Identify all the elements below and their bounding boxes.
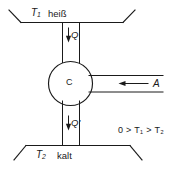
hot-wall-hatch-right <box>123 10 135 23</box>
cold-reservoir-wall <box>14 146 142 161</box>
hot-temperature-label: T1 <box>31 8 41 19</box>
work-label: A <box>153 79 160 89</box>
cold-temperature-label: T2 <box>36 150 46 161</box>
cold-wall-hatch-right <box>130 146 142 161</box>
heat-out-label: Q' <box>71 118 80 128</box>
cold-state-label: kalt <box>57 151 72 161</box>
work-arrow <box>119 81 149 86</box>
engine-label: C <box>66 78 73 87</box>
hot-state-label: heiß <box>48 9 66 19</box>
heat-engine-diagram: T1 heiß Q C A Q' T2 kalt 0 > T₁ > T₂ <box>0 0 185 170</box>
hot-wall-hatch-left <box>9 10 21 23</box>
temperature-relation-label: 0 > T₁ > T₂ <box>118 126 164 135</box>
cold-wall-hatch-left <box>14 146 26 161</box>
hot-reservoir-wall <box>9 10 135 23</box>
work-arrow-head <box>119 81 126 86</box>
heat-in-label: Q <box>71 30 78 40</box>
